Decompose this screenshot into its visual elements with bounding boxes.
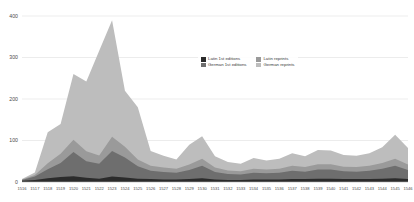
y-axis-tick-label: 100 [9, 137, 18, 143]
x-axis-tick-label: 1530 [198, 186, 208, 191]
x-axis-tick-label: 1541 [339, 186, 349, 191]
legend-swatch-german-reprints [256, 63, 261, 68]
x-axis-tick-label: 1532 [223, 186, 233, 191]
x-axis-tick-label: 1546 [403, 186, 413, 191]
x-axis-tick-label: 1518 [43, 186, 53, 191]
chart-container: 0100200300400151615171518151915201521152… [0, 0, 414, 202]
y-axis-tick-label: 400 [9, 13, 18, 19]
legend-label-latin-1st-editions: Latin 1st editions [208, 57, 240, 61]
x-axis-tick-label: 1526 [146, 186, 156, 191]
legend-item-german-1st-editions[interactable]: German 1st editions [201, 63, 246, 68]
x-axis-tick-label: 1529 [185, 186, 195, 191]
x-axis-tick-label: 1540 [326, 186, 336, 191]
x-axis-tick-label: 1525 [133, 186, 143, 191]
legend-item-latin-reprints[interactable]: Latin reprints [256, 57, 294, 62]
y-axis-tick-label: 200 [9, 96, 18, 102]
x-axis-tick-label: 1542 [352, 186, 362, 191]
x-axis-tick-label: 1536 [275, 186, 285, 191]
x-axis-tick-label: 1521 [82, 186, 92, 191]
y-axis-tick-label: 300 [9, 54, 18, 60]
x-axis-tick-label: 1516 [17, 186, 27, 191]
legend-swatch-german-1st-editions [201, 63, 206, 68]
x-axis-tick-label: 1519 [56, 186, 66, 191]
x-axis-tick-label: 1537 [288, 186, 298, 191]
legend-label-latin-reprints: Latin reprints [263, 57, 288, 61]
x-axis-tick-label: 1523 [108, 186, 118, 191]
x-axis-tick-label: 1517 [30, 186, 40, 191]
x-axis-tick-label: 1544 [378, 186, 388, 191]
area-chart-plot: 0100200300400151615171518151915201521152… [0, 0, 414, 202]
x-axis-tick-label: 1527 [159, 186, 169, 191]
x-axis-tick-label: 1522 [95, 186, 105, 191]
x-axis-tick-label: 1538 [301, 186, 311, 191]
x-axis-tick-label: 1528 [172, 186, 182, 191]
x-axis-tick-label: 1535 [262, 186, 272, 191]
y-axis-tick-label: 0 [15, 179, 18, 185]
legend-label-german-reprints: German reprints [263, 63, 294, 67]
x-axis-tick-label: 1545 [391, 186, 401, 191]
x-axis-tick-label: 1534 [249, 186, 259, 191]
x-axis-tick-label: 1543 [365, 186, 375, 191]
chart-legend: Latin 1st editions Latin reprints German… [198, 55, 298, 69]
x-axis-tick-label: 1531 [210, 186, 220, 191]
legend-label-german-1st-editions: German 1st editions [208, 63, 246, 67]
x-axis-tick-label: 1524 [120, 186, 130, 191]
x-axis-tick-label: 1533 [236, 186, 246, 191]
x-axis-tick-label: 1539 [313, 186, 323, 191]
legend-item-latin-1st-editions[interactable]: Latin 1st editions [201, 57, 246, 62]
legend-item-german-reprints[interactable]: German reprints [256, 63, 294, 68]
x-axis-tick-label: 1520 [69, 186, 79, 191]
legend-swatch-latin-1st-editions [201, 57, 206, 62]
legend-swatch-latin-reprints [256, 57, 261, 62]
